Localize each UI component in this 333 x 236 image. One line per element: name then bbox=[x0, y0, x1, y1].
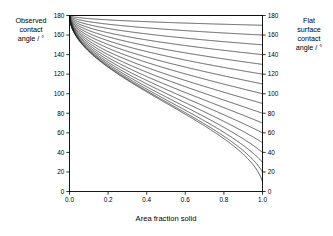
x-tick-label-0.8: 0.8 bbox=[219, 196, 228, 203]
y2-tick-label-0: 0 bbox=[268, 188, 272, 195]
y2-tick-label-40: 40 bbox=[268, 149, 276, 156]
plot-area: 0204060801001201401601800204060801001201… bbox=[0, 0, 333, 236]
y-tick-label-0: 0 bbox=[61, 188, 65, 195]
x-tick-label-0.6: 0.6 bbox=[181, 196, 190, 203]
y-tick-label-80: 80 bbox=[57, 110, 65, 117]
x-tick-label-0.2: 0.2 bbox=[104, 196, 113, 203]
curve-theta-50 bbox=[70, 16, 263, 143]
chart-svg: 0204060801001201401601800204060801001201… bbox=[0, 0, 333, 236]
curve-theta-100 bbox=[70, 16, 263, 94]
curve-theta-170 bbox=[70, 16, 263, 26]
y-tick-label-160: 160 bbox=[54, 31, 65, 38]
y-tick-label-20: 20 bbox=[57, 168, 65, 175]
y2-tick-label-100: 100 bbox=[268, 90, 279, 97]
chart-page: Observed contact angle / ° Flat surface … bbox=[0, 0, 333, 236]
y2-tick-label-120: 120 bbox=[268, 70, 279, 77]
y2-tick-label-180: 180 bbox=[268, 12, 279, 19]
y2-tick-label-140: 140 bbox=[268, 51, 279, 58]
y2-tick-label-20: 20 bbox=[268, 168, 276, 175]
curve-theta-160 bbox=[70, 16, 263, 36]
x-tick-label-0.0: 0.0 bbox=[65, 196, 74, 203]
y2-tick-label-80: 80 bbox=[268, 110, 276, 117]
y2-tick-label-160: 160 bbox=[268, 31, 279, 38]
y2-tick-label-60: 60 bbox=[268, 129, 276, 136]
y-tick-label-140: 140 bbox=[54, 51, 65, 58]
y-tick-label-120: 120 bbox=[54, 70, 65, 77]
x-tick-label-1.0: 1.0 bbox=[258, 196, 267, 203]
y-tick-label-180: 180 bbox=[54, 12, 65, 19]
x-tick-label-0.4: 0.4 bbox=[142, 196, 151, 203]
curve-theta-140 bbox=[70, 16, 263, 55]
y-tick-label-100: 100 bbox=[54, 90, 65, 97]
curve-series-group bbox=[70, 16, 263, 182]
y-tick-label-60: 60 bbox=[57, 129, 65, 136]
y-tick-label-40: 40 bbox=[57, 149, 65, 156]
